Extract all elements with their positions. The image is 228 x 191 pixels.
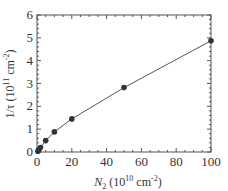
data-point [52, 129, 58, 135]
y-tick-label: 0 [27, 144, 34, 159]
data-point [69, 116, 75, 122]
x-tick-label: 0 [34, 154, 41, 169]
data-point [121, 85, 127, 91]
y-tick-label: 4 [27, 53, 34, 68]
y-tick-label: 3 [27, 76, 34, 91]
series-line [37, 41, 211, 152]
x-tick-label: 80 [170, 154, 183, 169]
chart: 0204060801000123456 N2 (1010 cm-2) 1/τ (… [0, 0, 228, 191]
data-point [208, 38, 214, 44]
y-tick-label: 2 [27, 98, 34, 113]
x-axis-label: N2 (1010 cm-2) [93, 174, 161, 191]
data-series [35, 38, 214, 154]
x-tick-label: 60 [135, 154, 148, 169]
x-tick-label: 40 [100, 154, 113, 169]
y-tick-label: 6 [27, 7, 34, 22]
data-point [38, 145, 44, 151]
x-tick-label: 20 [65, 154, 78, 169]
x-tick-label: 100 [201, 154, 221, 169]
y-tick-label: 5 [27, 30, 34, 45]
data-point [43, 138, 49, 144]
axis-ticks [37, 15, 211, 152]
plot-border [37, 15, 211, 152]
y-tick-label: 1 [27, 121, 34, 136]
y-axis-label: 1/τ (1011 cm-2) [2, 49, 17, 118]
plot-frame [37, 15, 211, 152]
